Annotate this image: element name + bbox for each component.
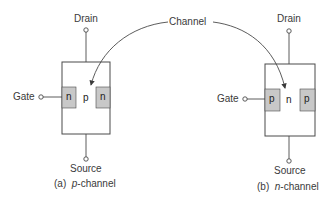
source-terminal-b xyxy=(287,159,291,163)
left-region-label-b: p xyxy=(269,94,275,104)
drain-terminal-a xyxy=(84,28,88,32)
source-terminal-a xyxy=(84,157,88,161)
caption-prefix-b: (b) xyxy=(257,181,269,192)
left-region-label-a: n xyxy=(66,92,72,102)
drain-label-a: Drain xyxy=(74,14,98,24)
right-region-label-a: n xyxy=(100,92,106,102)
gate-terminal-a xyxy=(39,95,43,99)
gate-terminal-b xyxy=(243,97,247,101)
drain-label-b: Drain xyxy=(277,14,301,24)
source-label-b: Source xyxy=(274,166,306,176)
center-region-label-a: p xyxy=(83,93,89,103)
center-region-label-b: n xyxy=(286,95,292,105)
caption-b: (b) n-channel xyxy=(257,182,319,192)
caption-prefix-a: (a) xyxy=(54,178,66,189)
source-label-a: Source xyxy=(70,164,102,174)
gate-label-a: Gate xyxy=(13,92,35,102)
channel-label: Channel xyxy=(169,17,206,27)
right-region-label-b: p xyxy=(304,94,310,104)
caption-suffix-b: -channel xyxy=(280,181,318,192)
gate-label-b: Gate xyxy=(217,94,239,104)
caption-suffix-a: -channel xyxy=(77,178,115,189)
caption-a: (a) p-channel xyxy=(54,179,116,189)
drain-terminal-b xyxy=(287,29,291,33)
